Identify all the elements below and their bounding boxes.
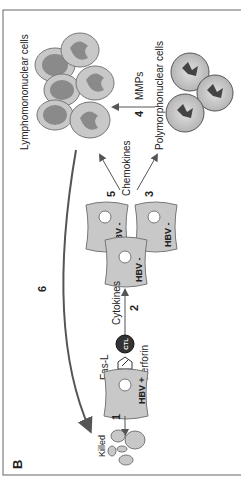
step-1: 1	[110, 414, 122, 420]
label-killed: Killed	[97, 435, 107, 457]
svg-text:HBV -: HBV -	[163, 222, 173, 247]
svg-text:CTL: CTL	[123, 338, 129, 350]
label-polymorphonuclear: Polymorphonuclear cells	[154, 41, 165, 150]
label-cytokines: Cytokines	[111, 281, 122, 325]
panel-letter: B	[10, 460, 25, 469]
label-mmps: MMPs	[134, 72, 145, 100]
hbv-positive-cell: HBV +	[104, 369, 148, 419]
label-chemokines: Chemokines	[121, 140, 132, 196]
killed-cell-fragments	[108, 430, 145, 465]
polymorphonuclear-cells	[166, 53, 233, 132]
hbv-negative-cell-3: HBV -	[105, 237, 147, 287]
step-6: 6	[36, 286, 48, 292]
svg-text:HBV -: HBV -	[134, 257, 144, 282]
hbv-immune-diagram: Lymphomononuclear cells Polymorphonuclea…	[0, 0, 241, 487]
label-lymphomononuclear: Lymphomononuclear cells	[19, 34, 30, 150]
arrow-step-3	[137, 155, 157, 190]
step-2: 2	[128, 305, 140, 311]
arrow-step-5	[100, 155, 120, 190]
step-3: 3	[143, 191, 155, 197]
step-5: 5	[105, 191, 117, 197]
ctl-cell: CTL	[116, 335, 134, 353]
step-4: 4	[133, 110, 145, 117]
svg-text:HBV +: HBV +	[137, 377, 147, 404]
lymphomononuclear-cells	[35, 33, 114, 138]
fas-l-receptor-icon	[118, 357, 132, 369]
arrow-step-6	[63, 150, 90, 430]
